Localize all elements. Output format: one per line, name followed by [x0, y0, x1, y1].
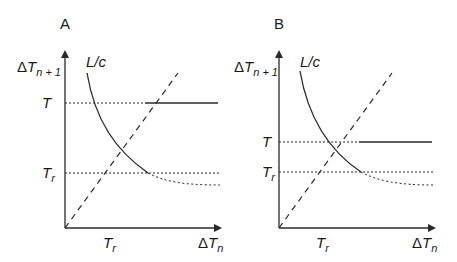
x-tick-tr: Tr [103, 234, 117, 254]
panel-a-label: A [60, 15, 70, 32]
lc-curve [300, 71, 361, 172]
diagram-canvas: A ΔTn + 1 L/c T Tr Tr ΔTn [0, 0, 457, 262]
x-tick-tr: Tr [316, 234, 330, 254]
x-axis-label: ΔTn [412, 234, 437, 254]
y-axis-label: ΔTn + 1 [17, 58, 61, 78]
panel-b-label: B [274, 15, 284, 32]
y-tick-tr: Tr [262, 163, 276, 183]
lc-curve [87, 73, 148, 173]
curve-label-lc: L/c [300, 53, 321, 70]
y-tick-t: T [42, 94, 53, 111]
y-axis-label: ΔTn + 1 [234, 58, 278, 78]
panel-b: B ΔTn + 1 L/c T Tr Tr ΔTn [234, 15, 437, 254]
lc-curve-extension [361, 172, 433, 185]
x-axis-label: ΔTn [198, 234, 223, 254]
y-tick-tr: Tr [42, 164, 56, 184]
panel-a: A ΔTn + 1 L/c T Tr Tr ΔTn [17, 15, 223, 254]
lc-curve-extension [148, 173, 220, 185]
curve-label-lc: L/c [86, 53, 107, 70]
y-tick-t: T [262, 133, 273, 150]
